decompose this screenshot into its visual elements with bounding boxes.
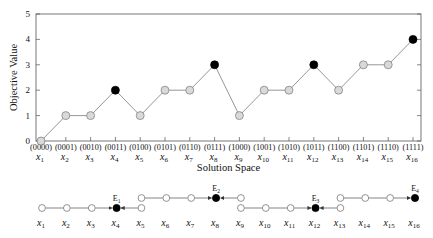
basin-node: [188, 195, 195, 202]
basin-node-label: x10: [258, 217, 271, 230]
basin-e3: E3: [238, 194, 344, 212]
basin-node-label: x7: [185, 217, 194, 230]
x-binary-label: (0010): [80, 143, 102, 152]
basin-node: [88, 205, 95, 212]
x-tick-label: x12: [306, 151, 319, 164]
y-axis-title: Objective Value: [8, 44, 19, 111]
x-tick-label: x1: [35, 151, 44, 164]
plot-frame: [36, 14, 421, 141]
line-chart: 012345Objective Value(0000)x1(0001)x2(00…: [8, 9, 424, 173]
basin-node-label: x1: [36, 217, 45, 230]
data-marker: [335, 86, 343, 94]
basin-node-label: x2: [61, 217, 70, 230]
data-marker: [136, 112, 144, 120]
attractor-label: E1: [113, 194, 121, 204]
attractor-node: [113, 204, 120, 211]
data-marker: [37, 137, 45, 145]
basin-e4: E4: [337, 184, 419, 202]
attractor-label: E4: [411, 184, 419, 194]
x-binary-label: (0001): [55, 143, 77, 152]
x-tick-label: x14: [356, 151, 369, 164]
basin-node: [138, 205, 145, 212]
data-marker: [62, 112, 70, 120]
x-binary-label: (0101): [154, 143, 176, 152]
basin-node: [362, 195, 369, 202]
basin-node-label: x11: [283, 217, 296, 230]
basin-node: [287, 205, 294, 212]
x-binary-label: (0111): [204, 143, 225, 152]
y-tick-label: 1: [26, 111, 31, 121]
x-tick-label: x4: [109, 151, 118, 164]
y-tick-label: 2: [26, 85, 31, 95]
basin-node-label: x16: [407, 217, 420, 230]
basin-node-label: x4: [111, 217, 120, 230]
basin-node: [337, 205, 344, 212]
optimum-marker: [211, 61, 219, 69]
y-tick-label: 4: [26, 34, 31, 44]
basin-e2: E2: [138, 184, 244, 202]
y-tick-label: 5: [26, 9, 31, 19]
basin-node-label: x5: [135, 217, 144, 230]
attractor-node: [212, 194, 219, 201]
basin-e1: E1: [39, 194, 145, 212]
basin-node: [238, 195, 245, 202]
basin-node: [262, 205, 269, 212]
basin-node-label: x6: [160, 217, 169, 230]
y-tick-label: 3: [26, 60, 31, 70]
attractor-node: [411, 194, 418, 201]
attractor-label: E2: [212, 184, 220, 194]
x-binary-label: (1010): [278, 143, 300, 152]
data-marker: [186, 86, 194, 94]
figure: 012345Objective Value(0000)x1(0001)x2(00…: [0, 0, 433, 238]
x-tick-label: x7: [184, 151, 193, 164]
basin-node-label: x8: [210, 217, 219, 230]
x-tick-label: x13: [331, 151, 344, 164]
x-binary-label: (0100): [129, 143, 151, 152]
basin-node-label: x9: [235, 217, 244, 230]
basin-node-label: x15: [382, 217, 395, 230]
data-marker: [161, 86, 169, 94]
x-tick-label: x11: [281, 151, 294, 164]
basin-node-label: x14: [358, 217, 371, 230]
x-tick-label: x5: [134, 151, 143, 164]
attractor-label: E3: [312, 194, 320, 204]
basin-node: [238, 205, 245, 212]
x-tick-label: x3: [85, 151, 94, 164]
x-binary-label: (0110): [179, 143, 201, 152]
basin-node: [387, 195, 394, 202]
data-marker: [87, 112, 95, 120]
basin-node: [63, 205, 70, 212]
x-axis-title: Solution Space: [197, 162, 261, 173]
y-axis: 012345Objective Value: [8, 9, 421, 146]
basin-node: [163, 195, 170, 202]
basin-node-label: x12: [308, 217, 321, 230]
basin-node: [39, 205, 46, 212]
x-tick-label: x6: [159, 151, 168, 164]
x-binary-label: (1000): [228, 143, 250, 152]
x-tick-label: x15: [380, 151, 393, 164]
x-tick-label: x2: [60, 151, 69, 164]
data-marker: [359, 61, 367, 69]
x-axis: (0000)x1(0001)x2(0010)x3(0011)x4(0100)x5…: [30, 137, 424, 173]
basin-node-label: x3: [86, 217, 95, 230]
x-tick-label: x16: [405, 151, 418, 164]
basin-node: [337, 195, 344, 202]
data-marker: [260, 86, 268, 94]
data-marker: [285, 86, 293, 94]
series-line: [41, 39, 413, 141]
x-binary-label: (0011): [105, 143, 127, 152]
optimum-marker: [409, 35, 417, 43]
basin-node-label: x13: [333, 217, 346, 230]
data-marker: [235, 112, 243, 120]
optimum-marker: [310, 61, 318, 69]
optimum-marker: [111, 86, 119, 94]
data-marker: [384, 61, 392, 69]
basin-diagram: E1E2E3E4x1x2x3x4x5x6x7x8x9x10x11x12x13x1…: [36, 184, 420, 230]
basin-node: [138, 195, 145, 202]
attractor-node: [312, 204, 319, 211]
